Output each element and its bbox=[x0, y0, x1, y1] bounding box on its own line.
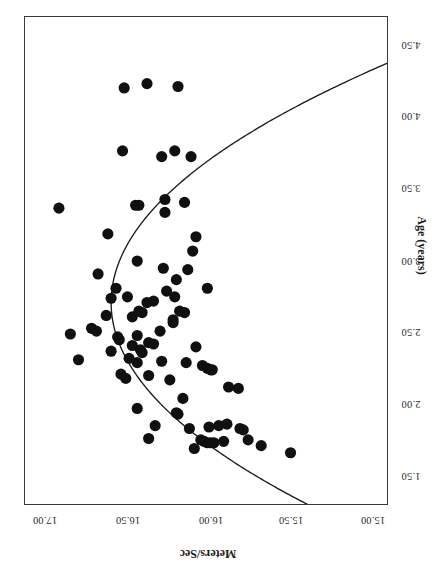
data-point bbox=[190, 341, 201, 352]
data-point bbox=[127, 311, 138, 322]
data-point bbox=[156, 356, 167, 367]
data-point bbox=[169, 145, 180, 156]
data-points bbox=[53, 78, 296, 458]
data-point bbox=[106, 346, 117, 357]
data-point bbox=[177, 393, 188, 404]
data-point bbox=[285, 447, 296, 458]
data-point bbox=[143, 433, 154, 444]
data-point bbox=[184, 423, 195, 434]
age-tick-6: 1.50 bbox=[394, 471, 428, 482]
data-point bbox=[202, 283, 213, 294]
meters-per-sec-axis-title: Meters/Sec bbox=[143, 546, 273, 561]
data-point bbox=[187, 245, 198, 256]
data-point bbox=[141, 297, 152, 308]
data-point bbox=[190, 231, 201, 242]
data-point bbox=[53, 203, 64, 214]
data-point bbox=[181, 357, 192, 368]
data-point bbox=[141, 78, 152, 89]
meters-per-sec-tick-1: 16.50 bbox=[108, 515, 148, 526]
data-point bbox=[171, 274, 182, 285]
fit-curve bbox=[111, 17, 387, 504]
data-point bbox=[132, 255, 143, 266]
data-point bbox=[132, 403, 143, 414]
data-point bbox=[65, 328, 76, 339]
data-point bbox=[150, 420, 161, 431]
meters-per-sec-tick-4: 15.00 bbox=[353, 515, 393, 526]
data-point bbox=[132, 330, 143, 341]
data-point bbox=[172, 81, 183, 92]
data-point bbox=[93, 268, 104, 279]
meters-per-sec-tick-0: 17.00 bbox=[25, 515, 65, 526]
meters-per-sec-tick-2: 16.00 bbox=[191, 515, 231, 526]
data-point bbox=[164, 374, 175, 385]
data-point bbox=[223, 381, 234, 392]
data-point bbox=[256, 440, 267, 451]
data-point bbox=[233, 383, 244, 394]
age-tick-1: 4.00 bbox=[394, 111, 428, 122]
data-point bbox=[154, 326, 165, 337]
data-point bbox=[120, 373, 131, 384]
age-tick-4: 2.50 bbox=[394, 327, 428, 338]
meters-per-sec-tick-3: 15.50 bbox=[271, 515, 311, 526]
data-point bbox=[158, 263, 169, 274]
data-point bbox=[91, 326, 102, 337]
data-point bbox=[114, 334, 125, 345]
data-point bbox=[132, 357, 143, 368]
data-point bbox=[159, 207, 170, 218]
data-point bbox=[189, 443, 200, 454]
data-point bbox=[159, 194, 170, 205]
age-axis-title: Age (years) bbox=[414, 181, 429, 311]
data-point bbox=[117, 145, 128, 156]
data-point bbox=[243, 434, 254, 445]
data-point bbox=[73, 354, 84, 365]
age-tick-5: 2.00 bbox=[394, 399, 428, 410]
age-tick-0: 4.50 bbox=[394, 40, 428, 51]
data-point bbox=[179, 307, 190, 318]
data-point bbox=[143, 370, 154, 381]
data-point bbox=[119, 82, 130, 93]
chart-page: 17.0016.5016.0015.5015.00 4.504.003.503.… bbox=[0, 0, 446, 579]
data-point bbox=[106, 293, 117, 304]
data-point bbox=[156, 151, 167, 162]
data-point bbox=[207, 364, 218, 375]
data-point bbox=[148, 338, 159, 349]
data-point bbox=[185, 151, 196, 162]
scatter-plot-svg bbox=[25, 17, 387, 504]
data-point bbox=[169, 291, 180, 302]
data-point bbox=[168, 317, 179, 328]
data-point bbox=[133, 200, 144, 211]
plot-area bbox=[24, 16, 388, 505]
data-point bbox=[182, 264, 193, 275]
data-point bbox=[238, 424, 249, 435]
data-point bbox=[172, 409, 183, 420]
data-point bbox=[179, 197, 190, 208]
data-point bbox=[137, 347, 148, 358]
data-point bbox=[122, 291, 133, 302]
data-point bbox=[221, 419, 232, 430]
data-point bbox=[110, 283, 121, 294]
data-point bbox=[102, 228, 113, 239]
quadratic-fit-line bbox=[111, 17, 387, 504]
data-point bbox=[203, 421, 214, 432]
data-point bbox=[218, 436, 229, 447]
data-point bbox=[101, 310, 112, 321]
data-point bbox=[208, 437, 219, 448]
